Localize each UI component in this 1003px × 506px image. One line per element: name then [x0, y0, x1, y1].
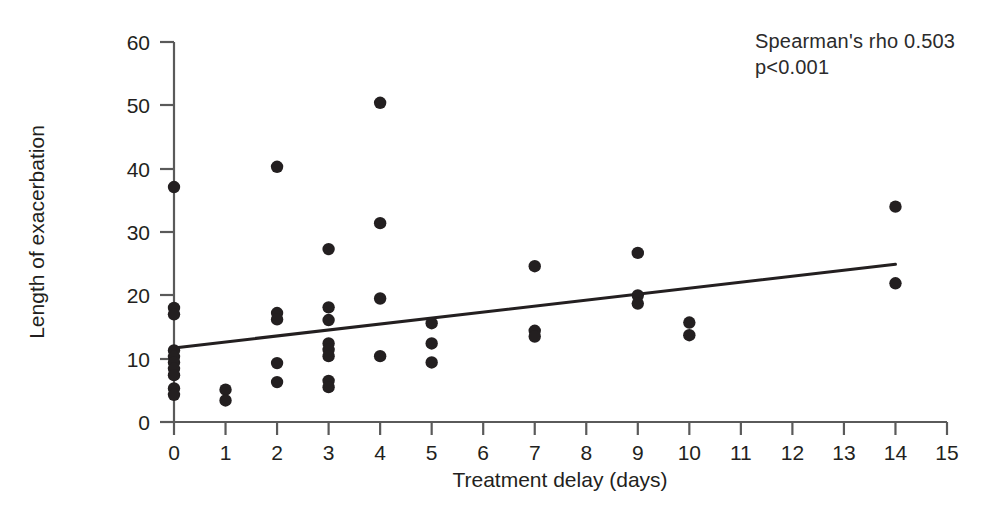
data-point	[219, 394, 231, 406]
data-point	[322, 243, 334, 255]
x-tick-label: 9	[632, 441, 644, 464]
data-point	[168, 308, 180, 320]
data-point	[632, 297, 644, 309]
data-point	[632, 247, 644, 259]
data-point	[889, 277, 901, 289]
x-axis-ticks	[174, 422, 947, 435]
data-point	[219, 384, 231, 396]
plot-canvas: 60 50 40 30 20 10 0 01234567891011121314…	[0, 0, 1003, 506]
data-point	[168, 181, 180, 193]
data-point	[425, 337, 437, 349]
annotation-spearman-rho: Spearman's rho 0.503	[755, 28, 955, 54]
x-tick-label: 3	[323, 441, 335, 464]
x-tick-label: 10	[678, 441, 701, 464]
y-tick-label: 60	[127, 31, 150, 54]
scatter-plot-figure: 60 50 40 30 20 10 0 01234567891011121314…	[0, 0, 1003, 506]
x-tick-label: 1	[220, 441, 232, 464]
data-point	[322, 381, 334, 393]
x-tick-label: 14	[884, 441, 908, 464]
data-point	[683, 329, 695, 341]
data-point	[168, 369, 180, 381]
x-tick-label: 13	[832, 441, 855, 464]
data-point	[322, 350, 334, 362]
y-tick-label: 40	[127, 158, 150, 181]
y-tick-label: 20	[127, 284, 150, 307]
data-point-group	[168, 97, 902, 407]
data-point	[374, 350, 386, 362]
data-point	[271, 161, 283, 173]
data-point	[529, 260, 541, 272]
x-axis-tick-labels: 0123456789101112131415	[168, 441, 959, 464]
y-tick-label: 0	[138, 411, 150, 434]
x-tick-label: 4	[374, 441, 386, 464]
data-point	[168, 389, 180, 401]
x-tick-label: 11	[730, 441, 752, 464]
y-tick-label: 50	[127, 94, 150, 117]
data-point	[374, 292, 386, 304]
x-tick-label: 8	[580, 441, 592, 464]
data-point	[683, 316, 695, 328]
x-tick-label: 15	[935, 441, 958, 464]
x-tick-label: 2	[271, 441, 283, 464]
x-axis-title: Treatment delay (days)	[452, 468, 667, 491]
y-tick-label: 10	[127, 348, 150, 371]
x-tick-label: 7	[529, 441, 541, 464]
data-point	[322, 301, 334, 313]
annotation-p-value: p<0.001	[755, 54, 829, 80]
data-point	[374, 97, 386, 109]
y-tick-label: 30	[127, 221, 150, 244]
data-point	[271, 357, 283, 369]
y-axis-title: Length of exacerbation	[25, 125, 48, 339]
data-point	[529, 330, 541, 342]
y-axis-tick-labels: 60 50 40 30 20 10 0	[127, 31, 150, 434]
data-point	[425, 356, 437, 368]
data-point	[271, 313, 283, 325]
data-point	[322, 314, 334, 326]
x-tick-label: 0	[168, 441, 180, 464]
data-point	[889, 200, 901, 212]
data-point	[374, 217, 386, 229]
x-tick-label: 12	[781, 441, 804, 464]
data-point	[425, 317, 437, 329]
x-tick-label: 5	[426, 441, 438, 464]
data-point	[271, 376, 283, 388]
x-tick-label: 6	[477, 441, 489, 464]
